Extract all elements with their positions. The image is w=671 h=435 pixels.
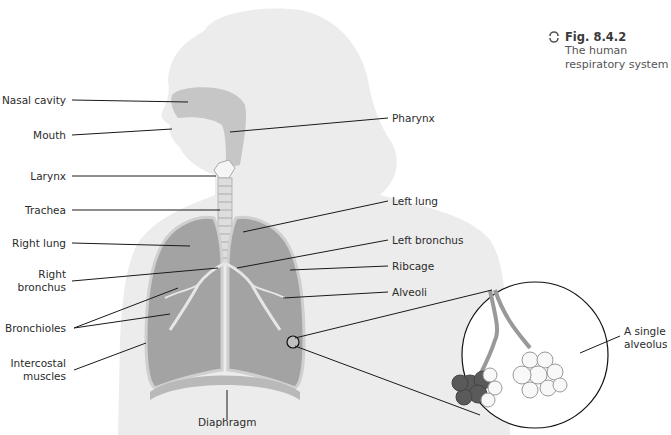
- label-single-alveolus: A single alveolus: [624, 325, 668, 351]
- label-nasal-cavity: Nasal cavity: [0, 94, 66, 107]
- label-left-bronchus: Left bronchus: [392, 234, 463, 247]
- label-alveoli: Alveoli: [392, 286, 427, 299]
- label-right-bronchus-line2: bronchus: [0, 281, 66, 294]
- label-intercostal-line2: muscles: [0, 370, 66, 383]
- figure-caption: Fig. 8.4.2 The human respiratory system: [548, 30, 668, 72]
- label-ribcage: Ribcage: [392, 260, 434, 273]
- label-bronchioles: Bronchioles: [0, 322, 66, 335]
- cycle-arrows-icon: [548, 31, 560, 43]
- label-right-bronchus-line1: Right: [0, 268, 66, 281]
- label-left-lung: Left lung: [392, 195, 438, 208]
- caption-line-2: respiratory system: [565, 58, 668, 72]
- label-diaphragm: Diaphragm: [198, 416, 256, 429]
- label-intercostal-muscles: Intercostal muscles: [0, 357, 66, 383]
- label-trachea: Trachea: [0, 204, 66, 217]
- label-larynx: Larynx: [0, 170, 66, 183]
- label-intercostal-line1: Intercostal: [0, 357, 66, 370]
- label-right-bronchus: Right bronchus: [0, 268, 66, 294]
- label-alveolus-line2: alveolus: [624, 338, 668, 351]
- label-alveolus-line1: A single: [624, 325, 668, 338]
- label-mouth: Mouth: [0, 129, 66, 142]
- caption-line-1: The human: [565, 44, 668, 58]
- figure-number: Fig. 8.4.2: [565, 30, 668, 44]
- label-right-lung: Right lung: [0, 237, 66, 250]
- label-pharynx: Pharynx: [392, 112, 435, 125]
